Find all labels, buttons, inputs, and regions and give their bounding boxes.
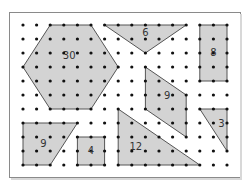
grid-dot xyxy=(171,65,174,68)
grid-dot xyxy=(103,107,106,110)
grid-dot xyxy=(198,93,201,96)
grid-dot xyxy=(198,107,201,110)
grid-dot xyxy=(89,163,92,166)
triangle-right-area-label: 3 xyxy=(218,118,224,129)
grid-dot xyxy=(225,37,228,40)
grid-dot xyxy=(144,93,147,96)
grid-dot xyxy=(130,121,133,124)
grid-dot xyxy=(21,23,24,26)
grid-dot xyxy=(117,163,120,166)
grid-dot xyxy=(185,65,188,68)
grid-dot xyxy=(35,135,38,138)
grid-dot xyxy=(212,23,215,26)
grid-dot xyxy=(157,37,160,40)
grid-dot xyxy=(35,93,38,96)
grid-dot xyxy=(21,65,24,68)
grid-dot xyxy=(21,93,24,96)
grid-dot xyxy=(49,149,52,152)
grid-dot xyxy=(103,23,106,26)
grid-dot xyxy=(130,65,133,68)
grid-dot xyxy=(103,65,106,68)
grid-dot xyxy=(225,51,228,54)
grid-dot xyxy=(157,65,160,68)
grid-dot xyxy=(157,135,160,138)
grid-dot xyxy=(157,93,160,96)
grid-dot xyxy=(157,51,160,54)
grid-dot xyxy=(185,121,188,124)
grid-dot xyxy=(89,37,92,40)
grid-dot xyxy=(62,79,65,82)
triangle-right-shape xyxy=(200,109,227,151)
grid-dot xyxy=(225,121,228,124)
grid-dot xyxy=(103,121,106,124)
grid-dot xyxy=(185,23,188,26)
grid-dot xyxy=(89,107,92,110)
grid-dot xyxy=(198,163,201,166)
grid-dot xyxy=(144,65,147,68)
grid-dot xyxy=(35,23,38,26)
grid-dot xyxy=(212,149,215,152)
grid-dot xyxy=(130,107,133,110)
grid-dot xyxy=(21,51,24,54)
grid-dot xyxy=(21,135,24,138)
grid-dot xyxy=(103,163,106,166)
grid-dot xyxy=(117,93,120,96)
grid-dot xyxy=(171,107,174,110)
grid-dot xyxy=(49,51,52,54)
grid-dot xyxy=(49,65,52,68)
grid-dot xyxy=(76,51,79,54)
grid-dot xyxy=(117,65,120,68)
grid-dot xyxy=(49,93,52,96)
grid-dot xyxy=(35,37,38,40)
grid-dot xyxy=(225,149,228,152)
grid-dot xyxy=(144,135,147,138)
grid-dot xyxy=(185,135,188,138)
grid-dot xyxy=(62,135,65,138)
grid-dot xyxy=(144,121,147,124)
grid-dot xyxy=(103,51,106,54)
grid-dot xyxy=(212,121,215,124)
grid-dot xyxy=(76,65,79,68)
grid-dot xyxy=(144,37,147,40)
grid-dot xyxy=(171,121,174,124)
grid-dot xyxy=(117,51,120,54)
square-area-label: 4 xyxy=(88,145,94,156)
grid-dot xyxy=(157,149,160,152)
grid-dot xyxy=(49,163,52,166)
grid-dot xyxy=(198,79,201,82)
triangle-bottom-area-label: 12 xyxy=(130,141,143,152)
grid-dot xyxy=(35,79,38,82)
parallelogram-shape xyxy=(145,67,186,137)
grid-dot xyxy=(171,93,174,96)
grid-dot xyxy=(89,135,92,138)
grid-dot xyxy=(62,107,65,110)
grid-dot xyxy=(35,149,38,152)
grid-dot xyxy=(49,121,52,124)
grid-dot xyxy=(157,107,160,110)
grid-dot xyxy=(225,107,228,110)
grid-dot xyxy=(21,149,24,152)
grid-dot xyxy=(89,79,92,82)
grid-dot xyxy=(49,23,52,26)
grid-dot xyxy=(117,107,120,110)
grid-dot xyxy=(130,93,133,96)
grid-dot xyxy=(198,51,201,54)
grid-dot xyxy=(198,135,201,138)
grid-dot xyxy=(117,121,120,124)
grid-dot xyxy=(198,65,201,68)
trapezoid-shape xyxy=(23,123,77,165)
grid-dot xyxy=(198,37,201,40)
grid-dot xyxy=(76,107,79,110)
grid-dot xyxy=(89,65,92,68)
grid-dot xyxy=(198,23,201,26)
grid-dot xyxy=(89,93,92,96)
grid-dot xyxy=(157,163,160,166)
grid-dot xyxy=(212,135,215,138)
grid-dot xyxy=(171,149,174,152)
grid-dot xyxy=(62,163,65,166)
grid-dot xyxy=(117,37,120,40)
grid-dot xyxy=(76,135,79,138)
grid-dot xyxy=(103,37,106,40)
grid-dot xyxy=(130,37,133,40)
shape-layer xyxy=(23,25,227,165)
